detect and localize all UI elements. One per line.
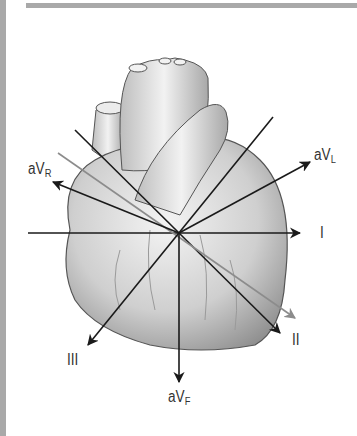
label-II: II [292,331,300,349]
label-aVL: aVL [314,146,336,165]
label-III: III [67,351,78,369]
heart-lead-diagram [0,0,357,436]
label-I: I [320,224,324,242]
label-aVF: aVF [168,388,190,407]
label-aVR: aVR [28,160,51,179]
